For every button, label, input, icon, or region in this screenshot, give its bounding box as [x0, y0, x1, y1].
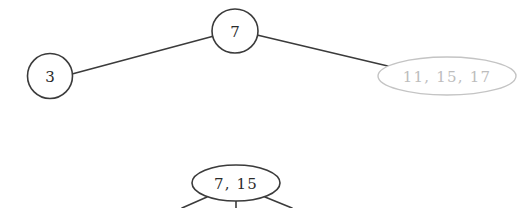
upper-tree-group: 7 3 11, 15, 17: [28, 9, 517, 99]
node-upper-right-child-label: 11, 15, 17: [403, 68, 491, 86]
tree-diagram-svg: 7 3 11, 15, 17 7, 15: [0, 0, 531, 208]
edge-root-to-right-child: [257, 35, 392, 67]
node-lower-root-label: 7, 15: [214, 175, 258, 193]
edge-root-to-left-child: [72, 36, 214, 74]
edge-lower-root-to-left: [182, 197, 207, 208]
node-upper-left-child-label: 3: [45, 68, 55, 86]
tree-diagram-canvas: 7 3 11, 15, 17 7, 15: [0, 0, 531, 208]
node-lower-root[interactable]: 7, 15: [192, 165, 280, 201]
node-upper-left-child[interactable]: 3: [28, 54, 73, 99]
edge-lower-root-to-right: [265, 197, 292, 208]
node-upper-root-label: 7: [230, 23, 240, 41]
lower-tree-group: 7, 15: [182, 165, 292, 208]
node-upper-root[interactable]: 7: [212, 9, 258, 53]
node-upper-right-child[interactable]: 11, 15, 17: [378, 57, 516, 95]
